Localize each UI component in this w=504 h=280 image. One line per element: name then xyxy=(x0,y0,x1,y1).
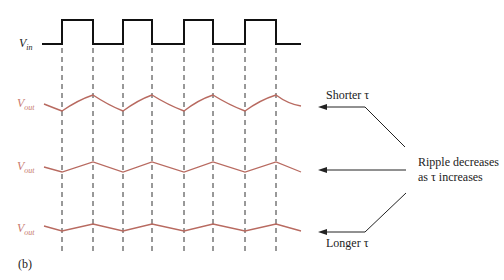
vin-label: Vin xyxy=(19,36,33,52)
vout-label-2: Vout xyxy=(17,159,35,175)
arrowheads xyxy=(318,104,327,235)
panel-label: (b) xyxy=(18,257,32,272)
ripple-label-line2: as τ increases xyxy=(418,170,483,185)
shorter-tau-label: Shorter τ xyxy=(326,88,369,103)
annotation-arrows xyxy=(322,107,406,232)
vout-medium-tau-wave xyxy=(44,162,301,172)
waveform-diagram xyxy=(0,0,504,280)
ripple-label-line1: Ripple decreases xyxy=(418,155,499,170)
vout-label-3: Vout xyxy=(17,221,35,237)
vout-label-1: Vout xyxy=(17,96,35,112)
vout-long-tau-wave xyxy=(44,224,301,231)
dashed-guides xyxy=(62,48,276,252)
vin-square-wave xyxy=(42,20,301,44)
vout-short-tau-wave xyxy=(44,95,301,111)
longer-tau-label: Longer τ xyxy=(326,236,368,251)
